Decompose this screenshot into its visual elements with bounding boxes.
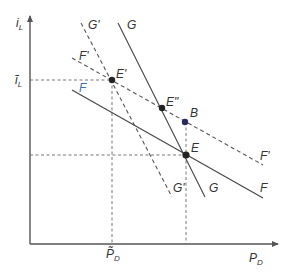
label-g-prime-top: G': [88, 18, 100, 32]
point-b: [182, 119, 188, 125]
label-f-right: F: [260, 181, 268, 195]
label-e-double-prime: E": [166, 95, 179, 109]
curve-g-prime: [81, 23, 172, 197]
point-e-prime: [109, 77, 115, 83]
x-axis-label: PD: [249, 251, 263, 267]
label-b: B: [190, 106, 198, 120]
point-e: [182, 151, 189, 158]
label-f-prime-left: F': [79, 49, 89, 63]
point-e-double-prime: [159, 105, 165, 111]
label-g-top: G: [127, 18, 136, 32]
label-f-left: F: [79, 81, 87, 95]
curve-f-prime: [72, 58, 263, 165]
label-g-prime-bottom: G': [173, 181, 185, 195]
fg-equilibrium-diagram: iL PD ĩL P̃D G' G F' F F' F G' G E' E" B…: [0, 0, 290, 275]
y-axis-label: iL: [16, 16, 23, 32]
x-tick-label: P̃D: [106, 246, 120, 263]
y-tick-label: ĩL: [14, 73, 22, 89]
label-e-prime: E': [116, 67, 127, 81]
label-g-bottom: G: [209, 181, 218, 195]
label-f-prime-right: F': [260, 149, 270, 163]
label-e: E: [191, 141, 200, 155]
